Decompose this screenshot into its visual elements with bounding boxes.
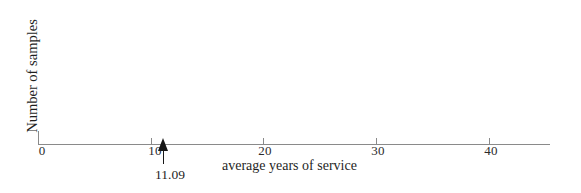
arrow-stem [163,150,164,164]
chart-figure: 0 10 20 30 40 Number of samples average … [0,0,581,193]
y-axis-title: Number of samples [24,6,40,146]
x-tick-label-20: 20 [258,144,271,158]
mean-value-label: 11.09 [155,167,185,182]
x-axis-line [38,144,550,145]
x-tick-label-0: 0 [39,144,46,158]
x-tick-label-40: 40 [484,144,497,158]
x-tick-label-30: 30 [371,144,384,158]
x-axis-title: average years of service [222,158,357,174]
mean-arrow-icon [156,138,170,164]
